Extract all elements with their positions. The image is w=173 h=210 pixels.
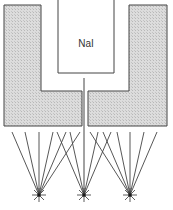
source-right-icon (123, 188, 137, 202)
source-left-icon (32, 188, 46, 202)
nai-label: NaI (78, 38, 94, 49)
rays-left (12, 132, 80, 195)
rays-right (90, 132, 157, 195)
nai-crystal (58, 0, 114, 73)
collimator-diagram: NaI (0, 0, 173, 210)
source-center-icon (77, 188, 91, 202)
